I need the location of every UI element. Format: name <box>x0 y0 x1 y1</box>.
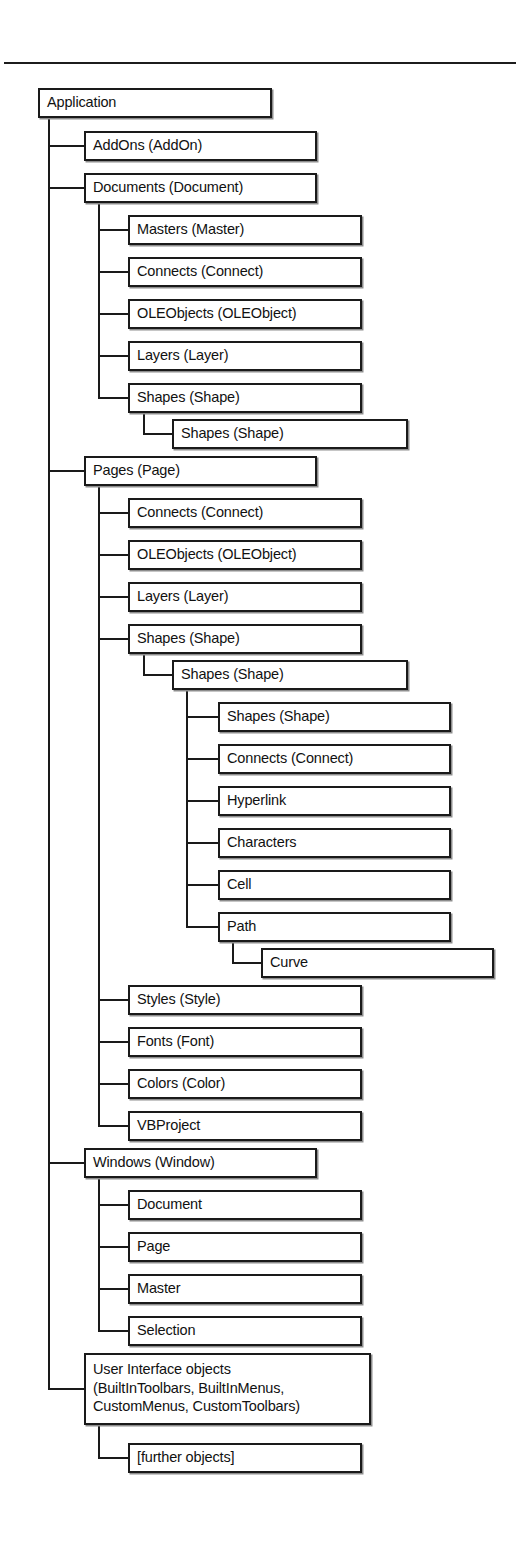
node-box-n13[interactable]: Shapes (Shape) <box>128 624 362 654</box>
node-label-n12: Layers (Layer) <box>130 588 232 605</box>
connector-branch-n26-2 <box>98 1288 130 1290</box>
node-box-n10[interactable]: Connects (Connect) <box>128 498 362 528</box>
connector-branch-n7-0 <box>143 433 174 435</box>
connector-trunk-n31 <box>98 1425 100 1458</box>
node-box-n30[interactable]: Selection <box>128 1316 362 1346</box>
node-label-n10: Connects (Connect) <box>130 504 267 521</box>
node-label-n25: VBProject <box>130 1117 204 1134</box>
connector-trunk-n26 <box>98 1178 100 1331</box>
node-label-n16: Connects (Connect) <box>220 750 357 767</box>
connector-branch-n9-7 <box>98 1125 130 1127</box>
node-label-n3: Masters (Master) <box>130 221 248 238</box>
connector-branch-n14-1 <box>186 758 220 760</box>
connector-branch-n9-1 <box>98 554 130 556</box>
connector-branch-n31-0 <box>98 1457 130 1459</box>
connector-branch-n9-0 <box>98 512 130 514</box>
connector-branch-n14-0 <box>186 716 220 718</box>
node-box-n6[interactable]: Layers (Layer) <box>128 341 362 371</box>
node-box-n11[interactable]: OLEObjects (OLEObject) <box>128 540 362 570</box>
node-box-n1[interactable]: AddOns (AddOn) <box>84 131 317 161</box>
connector-branch-n9-2 <box>98 596 130 598</box>
node-label-n17: Hyperlink <box>220 792 290 809</box>
node-box-n7[interactable]: Shapes (Shape) <box>128 383 362 413</box>
node-box-n26[interactable]: Windows (Window) <box>84 1148 317 1178</box>
connector-branch-n9-3 <box>98 638 130 640</box>
connector-branch-n9-6 <box>98 1083 130 1085</box>
node-label-n26: Windows (Window) <box>86 1154 219 1171</box>
connector-branch-n0-3 <box>48 1162 86 1164</box>
connector-branch-n20-0 <box>232 962 263 964</box>
connector-branch-n0-0 <box>48 145 86 147</box>
node-box-n17[interactable]: Hyperlink <box>218 786 451 816</box>
connector-trunk-n14 <box>186 690 188 927</box>
node-box-n21[interactable]: Curve <box>261 948 494 978</box>
node-label-n20: Path <box>220 918 260 935</box>
node-label-n7: Shapes (Shape) <box>130 389 244 406</box>
node-label-n4: Connects (Connect) <box>130 263 267 280</box>
node-label-n30: Selection <box>130 1322 199 1339</box>
node-label-n14: Shapes (Shape) <box>174 666 288 683</box>
node-box-n9[interactable]: Pages (Page) <box>84 456 317 486</box>
node-box-n16[interactable]: Connects (Connect) <box>218 744 451 774</box>
node-box-n15[interactable]: Shapes (Shape) <box>218 702 451 732</box>
connector-branch-n14-2 <box>186 800 220 802</box>
node-box-n25[interactable]: VBProject <box>128 1111 362 1141</box>
connector-branch-n2-4 <box>98 397 130 399</box>
node-box-n18[interactable]: Characters <box>218 828 451 858</box>
connector-trunk-n7 <box>143 413 145 434</box>
node-box-n12[interactable]: Layers (Layer) <box>128 582 362 612</box>
node-label-n18: Characters <box>220 834 300 851</box>
node-label-n8: Shapes (Shape) <box>174 425 288 442</box>
connector-branch-n2-0 <box>98 229 130 231</box>
connector-branch-n26-0 <box>98 1204 130 1206</box>
node-box-n32[interactable]: [further objects] <box>128 1443 362 1473</box>
top-horizontal-rule <box>4 62 516 64</box>
node-label-n24: Colors (Color) <box>130 1075 229 1092</box>
node-box-n29[interactable]: Master <box>128 1274 362 1304</box>
node-label-n15: Shapes (Shape) <box>220 708 334 725</box>
node-box-n8[interactable]: Shapes (Shape) <box>172 419 408 449</box>
node-box-n28[interactable]: Page <box>128 1232 362 1262</box>
connector-trunk-n2 <box>98 203 100 398</box>
connector-branch-n26-3 <box>98 1330 130 1332</box>
connector-branch-n0-1 <box>48 187 86 189</box>
connector-branch-n14-4 <box>186 884 220 886</box>
node-box-n4[interactable]: Connects (Connect) <box>128 257 362 287</box>
node-box-n5[interactable]: OLEObjects (OLEObject) <box>128 299 362 329</box>
node-box-n22[interactable]: Styles (Style) <box>128 985 362 1015</box>
connector-branch-n2-2 <box>98 313 130 315</box>
connector-branch-n14-3 <box>186 842 220 844</box>
node-label-n22: Styles (Style) <box>130 991 224 1008</box>
node-box-n24[interactable]: Colors (Color) <box>128 1069 362 1099</box>
connector-trunk-n20 <box>232 942 234 963</box>
node-box-n2[interactable]: Documents (Document) <box>84 173 317 203</box>
node-box-n0[interactable]: Application <box>38 88 272 118</box>
connector-branch-n9-5 <box>98 1041 130 1043</box>
connector-trunk-n13 <box>143 654 145 675</box>
node-box-n19[interactable]: Cell <box>218 870 451 900</box>
node-box-n31[interactable]: User Interface objects (BuiltInToolbars,… <box>84 1353 371 1425</box>
node-label-n5: OLEObjects (OLEObject) <box>130 305 300 322</box>
connector-branch-n2-3 <box>98 355 130 357</box>
node-label-n23: Fonts (Font) <box>130 1033 218 1050</box>
connector-branch-n26-1 <box>98 1246 130 1248</box>
node-box-n20[interactable]: Path <box>218 912 451 942</box>
connector-branch-n9-4 <box>98 999 130 1001</box>
node-box-n23[interactable]: Fonts (Font) <box>128 1027 362 1057</box>
node-label-n9: Pages (Page) <box>86 462 184 479</box>
node-label-n1: AddOns (AddOn) <box>86 137 206 154</box>
node-label-n6: Layers (Layer) <box>130 347 232 364</box>
node-label-n13: Shapes (Shape) <box>130 630 244 647</box>
node-label-n31: User Interface objects (BuiltInToolbars,… <box>86 1355 304 1416</box>
node-label-n27: Document <box>130 1196 206 1213</box>
connector-branch-n13-0 <box>143 674 174 676</box>
connector-branch-n0-4 <box>48 1388 86 1390</box>
node-label-n2: Documents (Document) <box>86 179 247 196</box>
node-label-n29: Master <box>130 1280 184 1297</box>
node-label-n11: OLEObjects (OLEObject) <box>130 546 300 563</box>
node-label-n28: Page <box>130 1238 174 1255</box>
node-box-n14[interactable]: Shapes (Shape) <box>172 660 408 690</box>
node-box-n3[interactable]: Masters (Master) <box>128 215 362 245</box>
node-label-n32: [further objects] <box>130 1449 238 1466</box>
node-box-n27[interactable]: Document <box>128 1190 362 1220</box>
